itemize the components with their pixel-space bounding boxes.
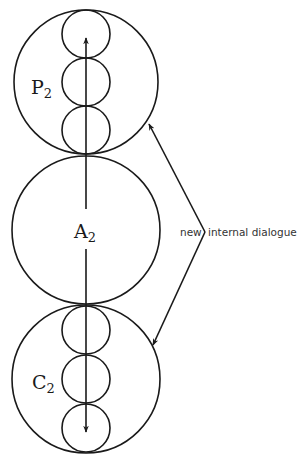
parent-label: P2 <box>31 76 52 101</box>
annotation-text-new: new <box>180 226 202 238</box>
annotation-arrow-upper-icon <box>149 124 205 232</box>
child-label: C2 <box>32 371 55 396</box>
ego-state-diagram: P2 A2 C2 new internal dialogue <box>0 0 302 461</box>
adult-label: A2 <box>73 220 96 245</box>
annotation-arrow-lower-icon <box>153 232 205 345</box>
annotation-text-internal-dialogue: internal dialogue <box>208 226 297 238</box>
